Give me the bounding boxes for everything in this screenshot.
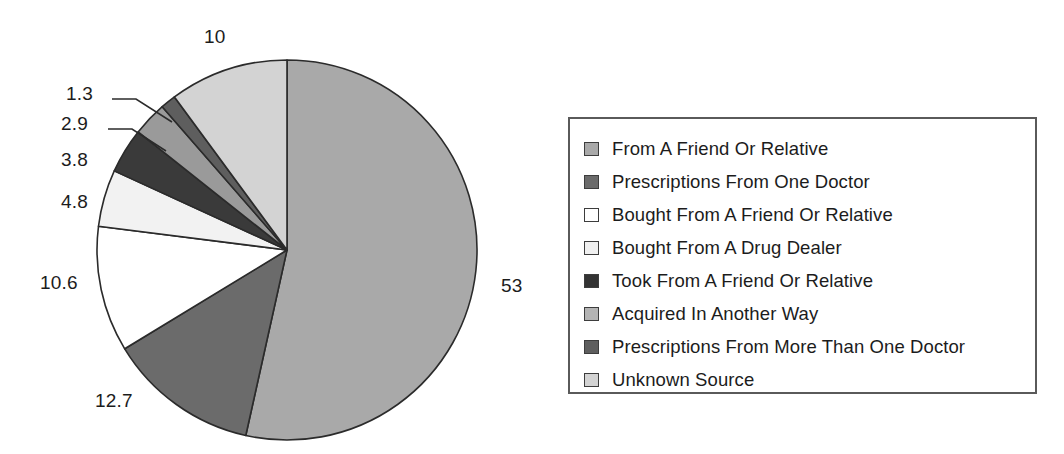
legend-swatch-icon <box>584 142 599 156</box>
legend: From A Friend Or RelativePrescriptions F… <box>568 117 1037 394</box>
legend-item-label: From A Friend Or Relative <box>612 138 828 160</box>
pie-value-label: 1.3 <box>66 83 93 105</box>
legend-swatch-icon <box>584 241 599 255</box>
legend-item-label: Bought From A Friend Or Relative <box>612 204 893 226</box>
pie-slices-group <box>97 60 477 440</box>
legend-item-label: Took From A Friend Or Relative <box>612 270 873 292</box>
pie-value-label: 4.8 <box>61 191 88 213</box>
legend-item: Acquired In Another Way <box>584 298 1035 330</box>
legend-item: Took From A Friend Or Relative <box>584 265 1035 297</box>
pie-value-label: 53 <box>501 275 523 297</box>
legend-swatch-icon <box>584 274 599 288</box>
legend-item-label: Prescriptions From More Than One Doctor <box>612 336 965 358</box>
pie-value-label: 10.6 <box>40 272 78 294</box>
legend-item: Unknown Source <box>584 364 1035 396</box>
legend-item-label: Unknown Source <box>612 369 754 391</box>
legend-swatch-icon <box>584 175 599 189</box>
pie-chart-figure: 101.32.93.84.810.612.753 From A Friend O… <box>0 0 1064 454</box>
legend-item-label: Acquired In Another Way <box>612 303 818 325</box>
pie-value-label: 3.8 <box>61 149 88 171</box>
legend-item: Prescriptions From More Than One Doctor <box>584 331 1035 363</box>
legend-item: Bought From A Friend Or Relative <box>584 199 1035 231</box>
legend-item-label: Bought From A Drug Dealer <box>612 237 842 259</box>
legend-swatch-icon <box>584 373 599 387</box>
legend-item-label: Prescriptions From One Doctor <box>612 171 870 193</box>
legend-items-list: From A Friend Or RelativePrescriptions F… <box>584 133 1035 396</box>
legend-swatch-icon <box>584 340 599 354</box>
pie-value-label: 12.7 <box>95 390 133 412</box>
legend-swatch-icon <box>584 208 599 222</box>
legend-item: Bought From A Drug Dealer <box>584 232 1035 264</box>
pie-value-label: 2.9 <box>61 113 88 135</box>
legend-item: From A Friend Or Relative <box>584 133 1035 165</box>
legend-item: Prescriptions From One Doctor <box>584 166 1035 198</box>
legend-swatch-icon <box>584 307 599 321</box>
pie-value-label: 10 <box>204 26 226 48</box>
